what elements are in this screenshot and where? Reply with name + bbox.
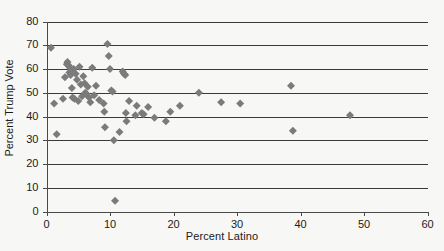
- data-point: [195, 89, 203, 97]
- data-point: [133, 102, 141, 110]
- data-point: [176, 102, 184, 110]
- data-point: [125, 97, 133, 105]
- data-point: [122, 109, 130, 117]
- data-point: [116, 128, 124, 136]
- data-point: [101, 123, 109, 131]
- tickmarks: [43, 23, 429, 216]
- data-point: [110, 136, 118, 144]
- data-point: [150, 114, 158, 122]
- data-point: [68, 84, 76, 92]
- data-point: [105, 52, 113, 60]
- data-point: [92, 82, 100, 90]
- data-point: [346, 111, 354, 119]
- data-point: [144, 103, 152, 111]
- data-point: [162, 117, 170, 125]
- data-point: [59, 95, 67, 103]
- data-point: [111, 197, 119, 205]
- data-point: [103, 40, 111, 48]
- data-point: [217, 98, 225, 106]
- data-points: [47, 40, 354, 205]
- data-point: [236, 99, 244, 107]
- gridlines: [47, 23, 428, 213]
- data-point: [106, 65, 114, 73]
- data-point: [166, 108, 174, 116]
- scatter-chart: Percent Trump Vote Percent Latino 010203…: [0, 0, 444, 251]
- plot-area: [0, 0, 444, 251]
- data-point: [289, 127, 297, 135]
- data-point: [88, 64, 96, 72]
- data-point: [50, 99, 58, 107]
- data-point: [287, 82, 295, 90]
- data-point: [53, 130, 61, 138]
- data-point: [47, 44, 55, 52]
- data-point: [100, 108, 108, 116]
- data-point: [123, 117, 131, 125]
- data-point: [79, 72, 87, 80]
